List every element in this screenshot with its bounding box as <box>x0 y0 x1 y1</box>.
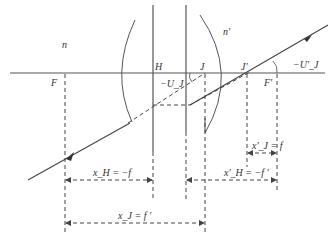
angle-arc-uj-prime <box>273 61 277 73</box>
angle-uj-prime-label: −U'_J <box>293 60 319 70</box>
dim-x-h-prime-label: x'_H = −f ' <box>224 168 269 178</box>
optical-diagram <box>0 0 331 243</box>
dim-x-h-label: x_H = −f <box>93 168 131 178</box>
dim-x-j-prime-label: x'_J = f <box>252 141 283 151</box>
point-f-prime-label: F' <box>264 78 272 88</box>
angle-arc-uj <box>189 73 192 82</box>
point-j-prime-label: J' <box>241 62 248 72</box>
angle-uj-label: −U_J <box>160 79 183 89</box>
lens-surface-right <box>200 15 221 133</box>
ray-arrow-icon <box>66 152 74 161</box>
point-h-label: H <box>155 62 162 72</box>
point-j-label: J <box>200 62 204 72</box>
dim-x-j-label: x_J = f ' <box>118 211 151 221</box>
point-f-label: F <box>51 78 57 88</box>
medium-n-label: n <box>62 40 67 50</box>
medium-n-prime-label: n' <box>223 27 230 37</box>
lens-surface-left <box>122 20 135 122</box>
